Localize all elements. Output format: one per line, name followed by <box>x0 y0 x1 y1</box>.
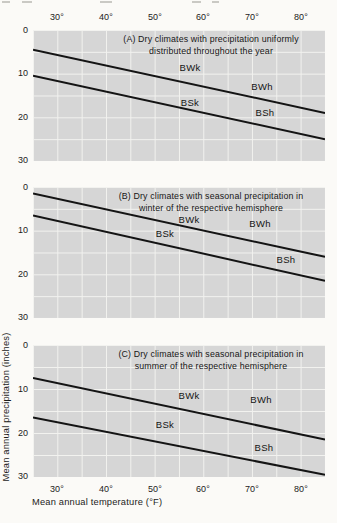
x-tick-label: 40° <box>91 484 121 494</box>
x-axis-title: Mean annual temperature (°F) <box>32 497 162 507</box>
panel-B-title-line2: winter of the respective hemisphere <box>97 203 325 215</box>
x-tick-label: 30° <box>42 12 72 22</box>
cropped-text-remnant <box>212 1 219 3</box>
x-tick-label: 50° <box>140 12 170 22</box>
cropped-text-remnant <box>2 1 10 3</box>
y-tick-label: 30 <box>2 312 28 323</box>
panel-A-title-line2: distributed throughout the year <box>97 46 325 58</box>
x-tick-label: 80° <box>286 12 316 22</box>
plot-area-C: (C) Dry climates with seasonal precipita… <box>33 345 325 477</box>
x-tick-label: 50° <box>140 484 170 494</box>
y-tick-label: 20 <box>2 269 28 280</box>
y-axis-title: Mean annual precipitation (inches) <box>1 330 13 484</box>
region-label-BSh: BSh <box>250 107 280 119</box>
region-label-BWh: BWh <box>245 218 275 230</box>
y-tick-label: 30 <box>2 155 28 166</box>
cropped-text-remnant <box>22 1 32 3</box>
panel-A-title: (A) Dry climates with precipitation unif… <box>97 34 325 57</box>
cropped-text-remnant <box>100 1 112 3</box>
panel-C-title-line2: summer of the respective hemisphere <box>97 361 325 373</box>
region-label-BWk: BWk <box>175 62 205 74</box>
x-tick-label: 70° <box>237 484 267 494</box>
figure-dry-climates-chart: 30° 40° 50° 60° 70° 80° 0 10 20 30 (A) D… <box>0 0 337 523</box>
panel-C-title: (C) Dry climates with seasonal precipita… <box>97 349 325 372</box>
panel-C: 0 10 20 30 (C) Dry climates with seasona… <box>0 345 337 477</box>
x-tick-label: 40° <box>91 12 121 22</box>
y-tick-label: 20 <box>2 112 28 123</box>
cropped-text-remnant <box>192 1 201 3</box>
panel-B-title: (B) Dry climates with seasonal precipita… <box>97 191 325 214</box>
panel-B: 0 10 20 30 (B) Dry climates with seasona… <box>0 187 337 318</box>
x-tick-label: 60° <box>188 484 218 494</box>
region-label-BWh: BWh <box>246 394 276 406</box>
x-tick-label: 70° <box>237 12 267 22</box>
region-label-BSk: BSk <box>150 228 180 240</box>
region-label-BSk: BSk <box>175 97 205 109</box>
region-label-BSk: BSk <box>150 419 180 431</box>
y-tick-label: 0 <box>2 25 28 36</box>
panel-C-title-line1: (C) Dry climates with seasonal precipita… <box>97 349 325 361</box>
y-tick-label: 0 <box>2 182 28 193</box>
y-tick-label: 10 <box>2 225 28 236</box>
panel-A-title-line1: (A) Dry climates with precipitation unif… <box>97 34 325 46</box>
y-tick-label: 10 <box>2 68 28 79</box>
region-label-BWh: BWh <box>247 81 277 93</box>
panel-B-title-line1: (B) Dry climates with seasonal precipita… <box>97 191 325 203</box>
panel-A: 0 10 20 30 (A) Dry climates with precipi… <box>0 30 337 161</box>
plot-area-A: (A) Dry climates with precipitation unif… <box>33 30 325 161</box>
region-label-BSh: BSh <box>271 254 301 266</box>
region-label-BSh: BSh <box>249 442 279 454</box>
region-label-BWk: BWk <box>174 390 204 402</box>
region-label-BWk: BWk <box>174 214 204 226</box>
plot-area-B: (B) Dry climates with seasonal precipita… <box>33 187 325 318</box>
x-tick-label: 30° <box>42 484 72 494</box>
x-tick-label: 80° <box>286 484 316 494</box>
x-tick-label: 60° <box>188 12 218 22</box>
